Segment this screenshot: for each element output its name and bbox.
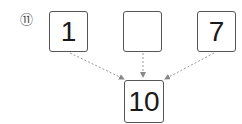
top-box-middle-blank[interactable] xyxy=(123,11,162,52)
top-box-left: 1 xyxy=(49,11,88,52)
arrow-right xyxy=(165,53,214,79)
arrow-left xyxy=(70,53,124,79)
bottom-box-sum: 10 xyxy=(124,80,164,123)
top-box-right: 7 xyxy=(197,11,236,52)
